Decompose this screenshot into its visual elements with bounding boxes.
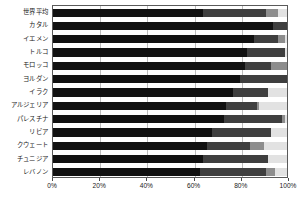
- bar-segment: [53, 115, 224, 123]
- bar-row: [53, 48, 287, 56]
- bar-segment: [226, 102, 256, 110]
- category-label: クウェート: [17, 141, 48, 148]
- category-label: モロッコ: [23, 61, 48, 68]
- bar-segment: [203, 9, 266, 17]
- stacked-bar-chart: 世界平均カタルイエメントルコモロッコヨルダンイラクアルジェリアパレスチナリビアク…: [0, 0, 303, 206]
- bar-row: [53, 155, 287, 163]
- bar-segment: [266, 9, 278, 17]
- category-axis-labels: 世界平均カタルイエメントルコモロッコヨルダンイラクアルジェリアパレスチナリビアク…: [0, 5, 50, 178]
- bar-segment: [264, 142, 287, 150]
- category-label: トルコ: [29, 48, 48, 55]
- x-tick-mark: [241, 178, 242, 181]
- category-label: イエメン: [23, 35, 48, 42]
- bar-segment: [53, 35, 254, 43]
- category-label: アルジェリア: [11, 101, 48, 108]
- category-label: レバノン: [23, 168, 48, 175]
- bar-segment: [53, 128, 212, 136]
- x-tick-label: 80%: [234, 182, 247, 190]
- category-label: パレスチナ: [17, 115, 48, 122]
- category-label: リビア: [29, 128, 48, 135]
- bar-segment: [250, 142, 264, 150]
- bar-segment: [53, 142, 207, 150]
- bar-segment: [247, 48, 284, 56]
- bar-segment: [285, 48, 287, 56]
- bar-segment: [53, 155, 203, 163]
- bar-segment: [53, 75, 240, 83]
- bar-segment: [200, 168, 266, 176]
- x-tick-label: 40%: [140, 182, 153, 190]
- category-label: カタル: [29, 21, 48, 28]
- bar-row: [53, 22, 287, 30]
- bar-row: [53, 168, 287, 176]
- bar-segment: [245, 62, 271, 70]
- bar-segment: [53, 168, 200, 176]
- bar-segment: [285, 35, 287, 43]
- bar-segment: [240, 75, 287, 83]
- bar-segment: [285, 115, 287, 123]
- x-tick-mark: [146, 178, 147, 181]
- bar-row: [53, 75, 287, 83]
- bar-row: [53, 62, 287, 70]
- bar-segment: [53, 22, 273, 30]
- bar-row: [53, 142, 287, 150]
- x-axis-ticks: 0%20%40%60%80%100%: [52, 178, 288, 186]
- bar-row: [53, 102, 287, 110]
- bar-row: [53, 35, 287, 43]
- x-tick-mark: [194, 178, 195, 181]
- category-label: 世界平均: [23, 8, 48, 15]
- bar-row: [53, 115, 287, 123]
- bar-segment: [259, 102, 287, 110]
- bar-segment: [268, 88, 287, 96]
- category-label: イラク: [29, 88, 48, 95]
- bar-segment: [254, 35, 277, 43]
- plot-area: [52, 5, 288, 178]
- bar-segment: [224, 115, 283, 123]
- bar-rows: [53, 6, 287, 177]
- bar-segment: [233, 88, 268, 96]
- bar-segment: [53, 48, 247, 56]
- bar-segment: [53, 9, 203, 17]
- bar-segment: [207, 142, 249, 150]
- x-tick-label: 0%: [47, 182, 57, 190]
- bar-segment: [271, 62, 287, 70]
- bar-segment: [212, 128, 271, 136]
- bar-segment: [53, 102, 226, 110]
- x-tick-mark: [99, 178, 100, 181]
- bar-segment: [278, 9, 287, 17]
- bar-segment: [203, 155, 269, 163]
- bar-segment: [268, 155, 287, 163]
- bar-segment: [271, 128, 287, 136]
- bar-row: [53, 88, 287, 96]
- x-tick-mark: [288, 178, 289, 181]
- bar-row: [53, 128, 287, 136]
- bar-segment: [275, 168, 287, 176]
- bar-segment: [278, 35, 285, 43]
- bar-segment: [273, 22, 287, 30]
- x-tick-mark: [52, 178, 53, 181]
- bar-row: [53, 9, 287, 17]
- bar-segment: [53, 88, 233, 96]
- x-tick-label: 100%: [280, 182, 297, 190]
- category-label: チュニジア: [17, 155, 48, 162]
- x-tick-label: 60%: [187, 182, 200, 190]
- category-label: ヨルダン: [23, 75, 48, 82]
- x-tick-label: 20%: [93, 182, 106, 190]
- bar-segment: [266, 168, 275, 176]
- bar-segment: [53, 62, 245, 70]
